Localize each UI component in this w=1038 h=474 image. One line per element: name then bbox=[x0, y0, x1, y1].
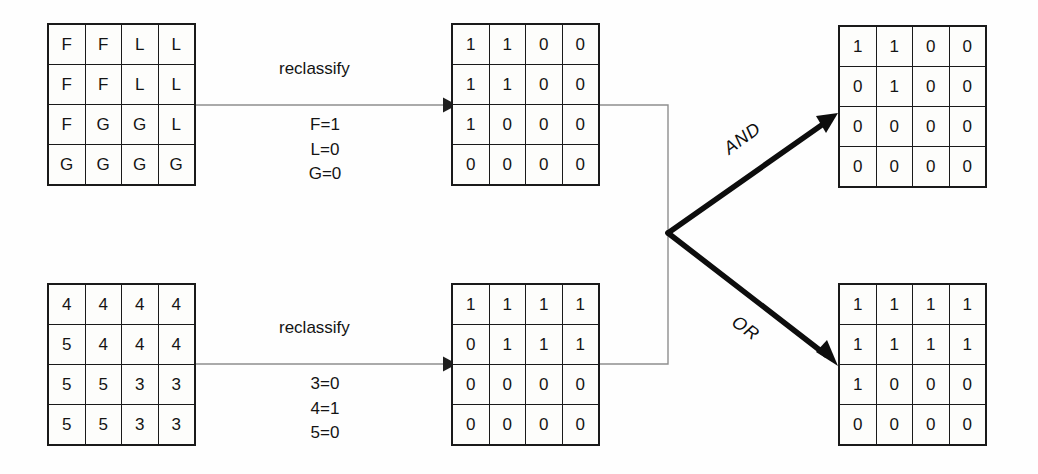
grid-cell: 1 bbox=[563, 285, 599, 324]
grid-cell: 3 bbox=[122, 365, 158, 404]
grid-cell: 0 bbox=[913, 365, 949, 404]
grid-cell: 3 bbox=[122, 405, 158, 444]
grid-cell: 0 bbox=[913, 405, 949, 444]
grid-cell: 4 bbox=[86, 325, 122, 364]
grid-cell: 0 bbox=[950, 107, 986, 146]
grid-cell: 1 bbox=[840, 365, 876, 404]
grid-cell: 0 bbox=[877, 107, 913, 146]
grid-cell: F bbox=[86, 25, 122, 64]
grid-cell: 0 bbox=[950, 147, 986, 186]
arrow-reclassify-bottom bbox=[196, 357, 457, 372]
grid-cell: 1 bbox=[913, 285, 949, 324]
grid-cell: 0 bbox=[877, 147, 913, 186]
grid-cell: 0 bbox=[526, 65, 562, 104]
grid-cell: 0 bbox=[840, 405, 876, 444]
grid-cell: 1 bbox=[950, 325, 986, 364]
grid-cell: F bbox=[49, 105, 85, 144]
grid-cell: 4 bbox=[159, 325, 195, 364]
grid-cell: 1 bbox=[526, 325, 562, 364]
grid-cell: 0 bbox=[563, 65, 599, 104]
grid-cell: 0 bbox=[526, 405, 562, 444]
grid-cell: 0 bbox=[490, 105, 526, 144]
grid-cell: 1 bbox=[877, 27, 913, 66]
reclassify-rules-bottom: 3=0 4=1 5=0 bbox=[279, 372, 371, 446]
grid-cell: G bbox=[49, 145, 85, 184]
grid-cell: 3 bbox=[159, 405, 195, 444]
reclassify-rule: L=0 bbox=[279, 138, 371, 163]
grid-cell: 0 bbox=[526, 145, 562, 184]
grid-cell: 4 bbox=[122, 285, 158, 324]
grid-cell: L bbox=[122, 25, 158, 64]
grid-cell: G bbox=[159, 145, 195, 184]
operator-label-and: AND bbox=[720, 118, 766, 159]
grid-cell: 0 bbox=[950, 365, 986, 404]
grid-cell: 1 bbox=[840, 27, 876, 66]
grid-cell: 0 bbox=[490, 405, 526, 444]
grid-cell: 3 bbox=[159, 365, 195, 404]
grid-cell: 0 bbox=[526, 365, 562, 404]
grid-cell: 5 bbox=[49, 405, 85, 444]
grid-cell: G bbox=[122, 145, 158, 184]
grid-cell: 5 bbox=[49, 325, 85, 364]
grid-cell: 0 bbox=[563, 105, 599, 144]
operator-label-or: OR bbox=[728, 311, 764, 345]
grid-cell: F bbox=[49, 25, 85, 64]
grid-result-and: 1 1 0 0 0 1 0 0 0 0 0 0 0 0 0 0 bbox=[838, 25, 987, 188]
grid-cell: 0 bbox=[950, 405, 986, 444]
reclassify-label-top: reclassify bbox=[279, 59, 350, 79]
grid-input-bottom: 4 4 4 4 5 4 4 4 5 5 3 3 5 5 3 3 bbox=[47, 283, 196, 446]
grid-cell: 0 bbox=[453, 365, 489, 404]
grid-cell: G bbox=[86, 105, 122, 144]
grid-cell: 0 bbox=[913, 27, 949, 66]
overlay-bus bbox=[600, 105, 668, 364]
grid-cell: 1 bbox=[453, 105, 489, 144]
grid-cell: 0 bbox=[950, 27, 986, 66]
grid-cell: 0 bbox=[563, 25, 599, 64]
grid-cell: 4 bbox=[159, 285, 195, 324]
grid-cell: 1 bbox=[840, 325, 876, 364]
arrow-or bbox=[668, 233, 838, 366]
grid-cell: 1 bbox=[490, 325, 526, 364]
reclassify-rule: F=1 bbox=[279, 113, 371, 138]
grid-cell: 5 bbox=[49, 365, 85, 404]
grid-cell: 1 bbox=[877, 285, 913, 324]
grid-cell: 1 bbox=[490, 65, 526, 104]
grid-cell: 0 bbox=[526, 105, 562, 144]
grid-cell: F bbox=[49, 65, 85, 104]
grid-cell: 0 bbox=[877, 365, 913, 404]
grid-cell: 0 bbox=[913, 107, 949, 146]
grid-cell: 1 bbox=[453, 285, 489, 324]
grid-input-top: F F L L F F L L F G G L G G G G bbox=[47, 23, 196, 186]
grid-cell: 0 bbox=[913, 67, 949, 106]
grid-cell: 0 bbox=[563, 145, 599, 184]
grid-cell: 1 bbox=[563, 325, 599, 364]
grid-cell: 0 bbox=[840, 67, 876, 106]
grid-cell: F bbox=[86, 65, 122, 104]
diagram-canvas: F F L L F F L L F G G L G G G G 1 1 0 0 … bbox=[0, 0, 1038, 474]
grid-cell: 1 bbox=[950, 285, 986, 324]
grid-result-or: 1 1 1 1 1 1 1 1 1 0 0 0 0 0 0 0 bbox=[838, 283, 987, 446]
grid-cell: L bbox=[159, 25, 195, 64]
grid-cell: L bbox=[159, 65, 195, 104]
grid-cell: 0 bbox=[453, 325, 489, 364]
grid-cell: 5 bbox=[86, 365, 122, 404]
grid-reclassified-top: 1 1 0 0 1 1 0 0 1 0 0 0 0 0 0 0 bbox=[451, 23, 600, 186]
grid-reclassified-bottom: 1 1 1 1 0 1 1 1 0 0 0 0 0 0 0 0 bbox=[451, 283, 600, 446]
grid-cell: 0 bbox=[840, 147, 876, 186]
grid-cell: 1 bbox=[913, 325, 949, 364]
grid-cell: 4 bbox=[49, 285, 85, 324]
arrow-reclassify-top bbox=[196, 98, 457, 113]
grid-cell: 1 bbox=[453, 65, 489, 104]
grid-cell: 0 bbox=[877, 405, 913, 444]
grid-cell: 1 bbox=[490, 285, 526, 324]
grid-cell: 0 bbox=[526, 25, 562, 64]
reclassify-label-bottom: reclassify bbox=[279, 318, 350, 338]
grid-cell: L bbox=[159, 105, 195, 144]
grid-cell: 0 bbox=[563, 365, 599, 404]
grid-cell: 1 bbox=[877, 67, 913, 106]
grid-cell: L bbox=[122, 65, 158, 104]
grid-cell: G bbox=[86, 145, 122, 184]
grid-cell: 1 bbox=[453, 25, 489, 64]
reclassify-rule: G=0 bbox=[279, 162, 371, 187]
reclassify-rule: 5=0 bbox=[279, 421, 371, 446]
